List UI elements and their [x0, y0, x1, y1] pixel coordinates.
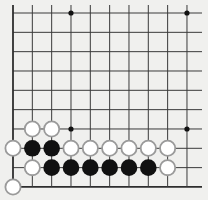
- white-stone[interactable]: [5, 179, 20, 194]
- white-stone[interactable]: [25, 160, 40, 175]
- black-stone[interactable]: [121, 159, 138, 176]
- black-stone[interactable]: [43, 140, 60, 157]
- white-stone[interactable]: [141, 141, 156, 156]
- white-stone[interactable]: [102, 141, 117, 156]
- black-stone[interactable]: [140, 159, 157, 176]
- black-stone[interactable]: [43, 159, 60, 176]
- black-stone[interactable]: [63, 159, 80, 176]
- star-point-icon: [68, 10, 73, 15]
- white-stone[interactable]: [160, 141, 175, 156]
- star-point-icon: [184, 10, 189, 15]
- white-stone[interactable]: [160, 160, 175, 175]
- star-point-icon: [68, 126, 73, 131]
- white-stone[interactable]: [44, 121, 59, 136]
- white-stone[interactable]: [5, 141, 20, 156]
- black-stone[interactable]: [101, 159, 118, 176]
- white-stone[interactable]: [63, 141, 78, 156]
- white-stone[interactable]: [121, 141, 136, 156]
- star-point-icon: [184, 126, 189, 131]
- black-stone[interactable]: [24, 140, 41, 157]
- black-stone[interactable]: [82, 159, 99, 176]
- white-stone[interactable]: [25, 121, 40, 136]
- go-board[interactable]: [0, 0, 208, 200]
- white-stone[interactable]: [83, 141, 98, 156]
- go-board-grid[interactable]: [0, 0, 208, 200]
